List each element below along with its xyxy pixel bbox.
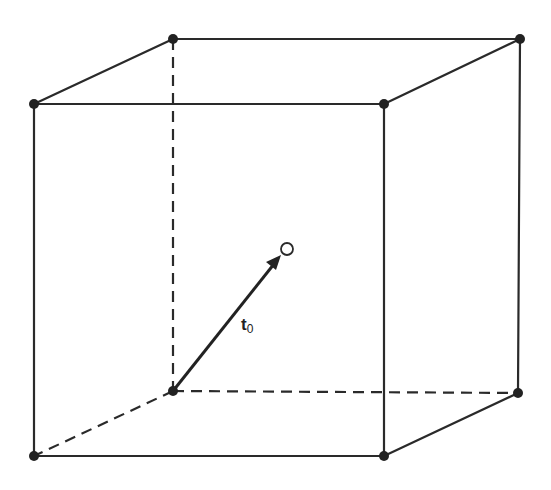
hidden-edge-bottom-left-depth bbox=[34, 391, 173, 456]
vertex-front-top-right bbox=[379, 99, 389, 109]
vertex-front-top-left bbox=[29, 99, 39, 109]
vertex-back-bottom-left bbox=[168, 386, 178, 396]
body-center-point bbox=[281, 243, 293, 255]
vector-label-subscript: 0 bbox=[247, 322, 254, 336]
edge-back-right bbox=[518, 39, 520, 393]
vector-label: t0 bbox=[241, 315, 254, 336]
arrowhead-icon bbox=[266, 255, 281, 270]
vertex-front-bottom-right bbox=[379, 451, 389, 461]
edge-top-right-depth bbox=[384, 39, 520, 104]
vertex-back-top-right bbox=[515, 34, 525, 44]
edge-bottom-right-depth bbox=[384, 393, 518, 456]
vertex-front-bottom-left bbox=[29, 451, 39, 461]
vertex-back-bottom-right bbox=[513, 388, 523, 398]
edge-top-left-depth bbox=[34, 39, 173, 104]
cube-diagram: t0 bbox=[0, 0, 551, 490]
translation-vector bbox=[173, 264, 274, 391]
vertex-back-top-left bbox=[168, 34, 178, 44]
hidden-edge-back-bottom bbox=[173, 391, 518, 393]
